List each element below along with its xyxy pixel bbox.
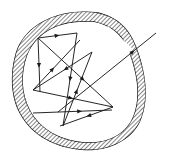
figure-container	[0, 0, 170, 158]
cavity-wall	[0, 0, 170, 158]
ray-reflection-diagram	[0, 0, 170, 158]
